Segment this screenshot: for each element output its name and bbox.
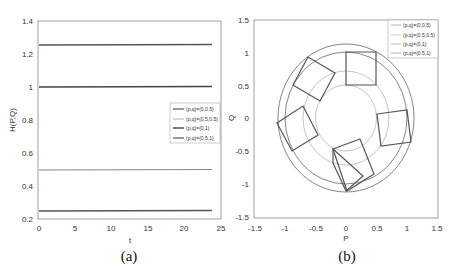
svg-text:1.5: 1.5 bbox=[238, 16, 250, 25]
svg-text:-1: -1 bbox=[242, 180, 250, 189]
svg-text:0.5: 0.5 bbox=[371, 224, 383, 233]
svg-text:1.5: 1.5 bbox=[431, 224, 443, 233]
y-axis-a: 1.4 1.2 1 0.8 0.6 0.4 0.2 H(P,Q) bbox=[8, 17, 34, 224]
svg-text:0: 0 bbox=[37, 224, 42, 233]
svg-text:1.2: 1.2 bbox=[22, 50, 34, 59]
square-right bbox=[377, 110, 411, 146]
y-label-a: H(P,Q) bbox=[8, 108, 17, 132]
svg-text:-1.5: -1.5 bbox=[248, 224, 262, 233]
figure: 1.4 1.2 1 0.8 0.6 0.4 0.2 H(P,Q) 0 5 10 … bbox=[0, 0, 457, 278]
svg-text:0: 0 bbox=[344, 224, 349, 233]
square-upper-left bbox=[293, 57, 335, 101]
line-p0.5-q1 bbox=[39, 45, 212, 46]
line-p0.5-q0.5 bbox=[39, 170, 212, 171]
svg-text:15: 15 bbox=[144, 224, 153, 233]
svg-text:0.2: 0.2 bbox=[22, 215, 34, 224]
svg-text:0.6: 0.6 bbox=[22, 149, 34, 158]
circle-r0.5 bbox=[316, 85, 377, 151]
svg-text:-0.5: -0.5 bbox=[309, 224, 323, 233]
x-axis-b: -1.5 -1 -0.5 0 0.5 1 1.5 P bbox=[248, 224, 443, 243]
svg-text:0.5: 0.5 bbox=[238, 82, 250, 91]
svg-text:(p,q)=(0,0.5): (p,q)=(0,0.5) bbox=[403, 22, 431, 28]
svg-text:20: 20 bbox=[180, 224, 189, 233]
svg-text:(p,q)=(0.5,1): (p,q)=(0.5,1) bbox=[186, 135, 214, 141]
line-p0-q0.5 bbox=[39, 211, 212, 212]
svg-text:(p,q)=(0,0.5): (p,q)=(0,0.5) bbox=[186, 106, 214, 112]
svg-text:(p,q)=(0,1): (p,q)=(0,1) bbox=[186, 125, 210, 131]
panel-b: 1.5 1 0.5 0 -0.5 -1 -1.5 Q -1.5 -1 -0.5 … bbox=[227, 16, 443, 265]
svg-text:-1: -1 bbox=[281, 224, 289, 233]
svg-text:1: 1 bbox=[405, 224, 410, 233]
x-label-b: P bbox=[343, 234, 348, 243]
svg-text:-1.5: -1.5 bbox=[235, 213, 249, 222]
legend-b: (p,q)=(0,0.5) (p,q)=(0.5,0.5) (p,q)=(0,1… bbox=[388, 20, 438, 58]
caption-a: (a) bbox=[121, 248, 138, 265]
svg-text:5: 5 bbox=[73, 224, 78, 233]
legend-a: (p,q)=(0,0.5) (p,q)=(0.5,0.5) (p,q)=(0,1… bbox=[170, 103, 220, 143]
panel-a: 1.4 1.2 1 0.8 0.6 0.4 0.2 H(P,Q) 0 5 10 … bbox=[8, 17, 226, 265]
svg-text:1: 1 bbox=[245, 49, 250, 58]
line-p0-q1 bbox=[39, 87, 212, 88]
svg-text:(p,q)=(0.5,1): (p,q)=(0.5,1) bbox=[403, 50, 431, 56]
x-label-a: t bbox=[129, 236, 132, 245]
caption-b: (b) bbox=[338, 248, 356, 265]
svg-text:(p,q)=(0.5,0.5): (p,q)=(0.5,0.5) bbox=[403, 32, 435, 38]
svg-text:1: 1 bbox=[29, 83, 34, 92]
svg-text:0: 0 bbox=[245, 114, 250, 123]
x-axis-a: 0 5 10 15 20 25 t bbox=[37, 224, 226, 245]
svg-text:0.4: 0.4 bbox=[22, 182, 34, 191]
svg-text:1.4: 1.4 bbox=[22, 17, 34, 26]
svg-text:(p,q)=(0,1): (p,q)=(0,1) bbox=[403, 41, 427, 47]
svg-text:-0.5: -0.5 bbox=[235, 147, 249, 156]
svg-text:10: 10 bbox=[107, 224, 116, 233]
square-left bbox=[277, 106, 318, 151]
svg-text:25: 25 bbox=[217, 224, 226, 233]
svg-text:0.8: 0.8 bbox=[22, 116, 34, 125]
y-label-b: Q bbox=[227, 115, 236, 121]
y-axis-b: 1.5 1 0.5 0 -0.5 -1 -1.5 Q bbox=[227, 16, 250, 222]
svg-text:(p,q)=(0.5,0.5): (p,q)=(0.5,0.5) bbox=[186, 116, 218, 122]
